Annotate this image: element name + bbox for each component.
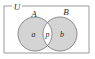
region-label-a: a xyxy=(32,30,36,39)
region-label-p: p xyxy=(45,30,50,39)
set-label-b: B xyxy=(63,7,69,17)
venn-diagram-figure: U A B a p b xyxy=(0,0,95,59)
venn-diagram-canvas: U A B a p b xyxy=(0,0,95,59)
set-label-a: A xyxy=(30,9,37,19)
universe-label: U xyxy=(14,2,21,12)
region-label-b: b xyxy=(60,30,64,39)
